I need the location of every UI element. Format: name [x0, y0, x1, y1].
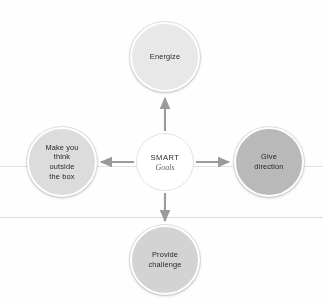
node-think-outside-box[interactable]: Make you think outside the box	[27, 127, 97, 197]
node-provide-challenge[interactable]: Provide challenge	[130, 225, 200, 295]
node-smart-goals-center[interactable]: SMART Goals	[136, 133, 194, 191]
node-give-direction-line-1: Give	[261, 152, 277, 161]
center-title: SMART	[151, 153, 180, 162]
node-think-outside-box-line-3: outside	[50, 162, 75, 171]
node-think-outside-box-line-2: think	[54, 152, 70, 161]
node-provide-challenge-line-1: Provide	[152, 250, 178, 259]
node-think-outside-box-label: Make you think outside the box	[41, 143, 82, 181]
node-give-direction-line-2: direction	[254, 162, 283, 171]
center-subtitle: Goals	[155, 163, 174, 172]
node-provide-challenge-label: Provide challenge	[145, 250, 186, 269]
node-give-direction-label: Give direction	[250, 152, 287, 171]
node-think-outside-box-line-1: Make you	[45, 143, 78, 152]
node-energize-label: Energize	[146, 52, 184, 62]
node-give-direction[interactable]: Give direction	[234, 127, 304, 197]
node-provide-challenge-line-2: challenge	[149, 260, 182, 269]
diagram-canvas: Energize Give direction Provide challeng…	[0, 0, 323, 304]
node-energize[interactable]: Energize	[130, 22, 200, 92]
node-think-outside-box-line-4: the box	[49, 172, 74, 181]
